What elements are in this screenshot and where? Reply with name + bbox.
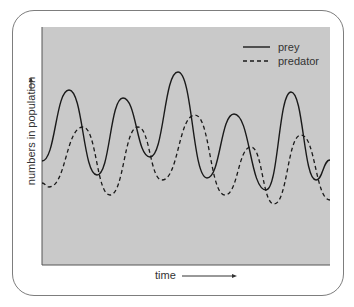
legend-predator-label: predator	[278, 55, 319, 67]
legend-prey-label: prey	[278, 41, 300, 53]
x-axis-label: time	[155, 269, 176, 281]
x-axis-arrow-icon	[182, 274, 237, 278]
predator-prey-chart: prey predator	[0, 0, 354, 307]
y-axis-label: numbers in population	[25, 77, 37, 185]
